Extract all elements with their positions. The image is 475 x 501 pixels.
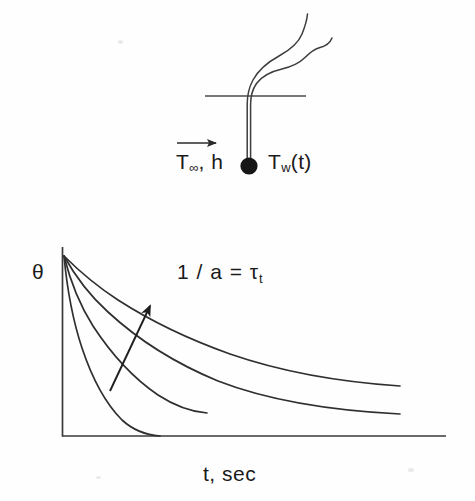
junction-temp-label-subscript: w: [281, 160, 291, 175]
time-constant-annotation-text: 1 / a = τ: [177, 260, 259, 283]
figure-vector-layer: [0, 0, 475, 501]
junction-temp-label: Tw(t): [268, 151, 312, 174]
figure-root: T∞, h Tw(t) θ 1 / a = τt t, sec: [0, 0, 475, 501]
free-stream-label-tail: , h: [199, 150, 224, 173]
lead-wire-strand-b: [251, 38, 332, 164]
y-axis-label: θ: [32, 261, 44, 282]
decay-curve-4: [64, 256, 160, 436]
x-axis-label: t, sec: [203, 463, 256, 484]
thermocouple-bead: [240, 157, 257, 174]
time-constant-annotation-subscript: t: [259, 271, 263, 286]
free-stream-label-T: T: [176, 150, 189, 173]
junction-temp-label-T: T: [268, 150, 281, 173]
time-constant-annotation: 1 / a = τt: [177, 261, 263, 285]
free-stream-label: T∞, h: [176, 151, 223, 174]
junction-temp-label-tail: (t): [291, 150, 312, 173]
free-stream-label-subscript: ∞: [189, 160, 198, 175]
lead-wire-strand-a: [247, 14, 307, 164]
